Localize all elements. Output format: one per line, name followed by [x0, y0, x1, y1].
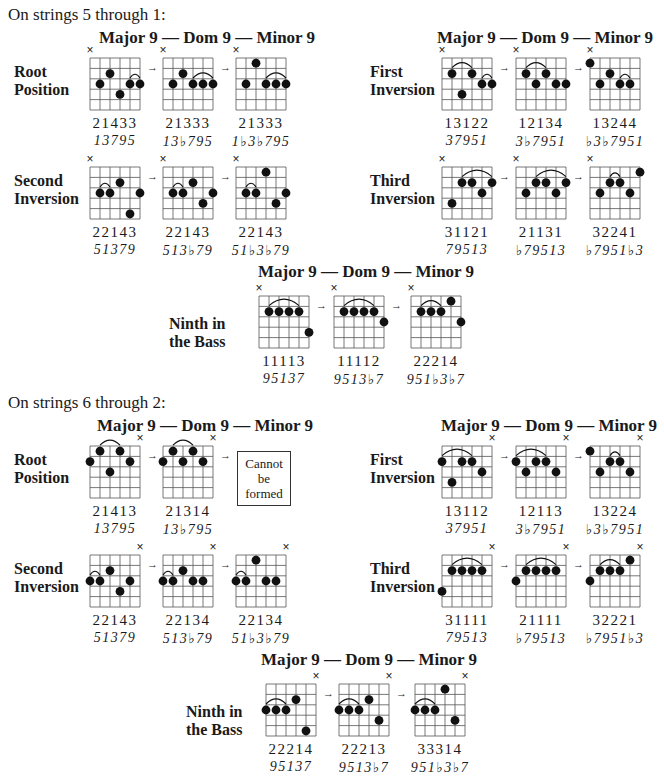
row-label: Ninth inthe Bass: [186, 703, 242, 739]
fingering: 21433: [75, 115, 155, 132]
svg-text:×: ×: [488, 431, 495, 445]
chord-diagram: ×: [89, 554, 141, 608]
svg-text:×: ×: [255, 281, 262, 295]
section-title: On strings 6 through 2:: [8, 393, 166, 413]
fingering: 21314: [148, 503, 228, 520]
chord-diagram: ×: [441, 445, 493, 499]
row-label: FirstInversion: [370, 451, 435, 487]
group-header: Major 9 — Dom 9 — Minor 9: [97, 416, 313, 436]
fingering: 32221: [575, 612, 655, 629]
arrow-icon: →: [147, 558, 158, 570]
fingering: 22143: [75, 224, 155, 241]
fingering: 22214: [251, 741, 331, 758]
fingering: 31111: [427, 612, 507, 629]
row-label: SecondInversion: [14, 172, 79, 208]
svg-text:×: ×: [586, 43, 593, 57]
arrow-icon: →: [147, 170, 158, 182]
chord-diagram: ×: [515, 166, 567, 220]
cannot-be-formed-box: Cannotbeformed: [237, 451, 291, 506]
fingering: 22143: [75, 612, 155, 629]
svg-text:×: ×: [159, 43, 166, 57]
chord-diagram: ×: [338, 683, 390, 737]
chord-diagram: ×: [89, 445, 141, 499]
chord-diagram: ×: [162, 445, 214, 499]
fingering: 21333: [221, 115, 301, 132]
chord-diagram: ×: [414, 683, 466, 737]
arrow-icon: →: [573, 558, 584, 570]
degrees: 951♭3♭7: [395, 759, 485, 776]
fingering: 21413: [75, 503, 155, 520]
row-label: RootPosition: [14, 451, 69, 487]
arrow-icon: →: [220, 61, 231, 73]
chord-diagram: ×: [235, 57, 287, 111]
arrow-icon: →: [396, 687, 407, 699]
chord-diagram: ×: [410, 295, 462, 349]
row-label: RootPosition: [14, 63, 69, 99]
arrow-icon: →: [573, 61, 584, 73]
svg-text:×: ×: [407, 281, 414, 295]
chord-diagram: ×: [515, 445, 567, 499]
arrow-icon: →: [573, 170, 584, 182]
degrees: 1♭3♭795: [216, 133, 306, 150]
arrow-icon: →: [147, 449, 158, 461]
fingering: 22213: [324, 741, 404, 758]
svg-text:×: ×: [562, 431, 569, 445]
svg-text:×: ×: [209, 540, 216, 554]
svg-text:×: ×: [438, 43, 445, 57]
chord-diagram: ×: [441, 57, 493, 111]
chord-diagram: ×: [589, 57, 641, 111]
chord-diagram: ×: [589, 445, 641, 499]
chord-diagram: ×: [162, 57, 214, 111]
degrees: ♭7951♭3: [570, 242, 660, 259]
arrow-icon: →: [499, 170, 510, 182]
svg-text:×: ×: [512, 43, 519, 57]
fingering: 32241: [575, 224, 655, 241]
arrow-icon: →: [323, 687, 334, 699]
chord-diagram: ×: [258, 295, 310, 349]
fingering: 22143: [221, 224, 301, 241]
svg-text:×: ×: [512, 152, 519, 166]
degrees: ♭3♭7951: [570, 521, 660, 538]
fingering: 13224: [575, 503, 655, 520]
fingering: 22134: [148, 612, 228, 629]
svg-text:×: ×: [232, 43, 239, 57]
arrow-icon: →: [573, 449, 584, 461]
svg-text:×: ×: [461, 669, 468, 683]
svg-text:×: ×: [330, 281, 337, 295]
fingering: 11113: [244, 353, 324, 370]
chord-diagram: ×: [265, 683, 317, 737]
chord-diagram: ×: [441, 166, 493, 220]
fingering: 13112: [427, 503, 507, 520]
group-header: Major 9 — Dom 9 — Minor 9: [99, 28, 315, 48]
fingering: 33314: [400, 741, 480, 758]
svg-text:×: ×: [159, 152, 166, 166]
fingering: 22143: [148, 224, 228, 241]
arrow-icon: →: [499, 61, 510, 73]
chord-diagram: ×: [589, 554, 641, 608]
row-label: Ninth inthe Bass: [169, 315, 225, 351]
fingering: 21333: [148, 115, 228, 132]
svg-text:×: ×: [209, 431, 216, 445]
chord-diagram: ×: [235, 554, 287, 608]
fingering: 22214: [396, 353, 476, 370]
svg-text:×: ×: [232, 152, 239, 166]
chord-diagram: ×: [89, 57, 141, 111]
chord-diagram: ×: [515, 57, 567, 111]
degrees: 51♭3♭79: [216, 242, 306, 259]
svg-text:×: ×: [636, 540, 643, 554]
chord-diagram: ×: [589, 166, 641, 220]
row-label: SecondInversion: [14, 560, 79, 596]
svg-text:×: ×: [586, 152, 593, 166]
degrees: 13♭795: [143, 521, 233, 538]
arrow-icon: →: [220, 558, 231, 570]
fingering: 12134: [501, 115, 581, 132]
chord-diagram: ×: [235, 166, 287, 220]
chord-diagram: ×: [441, 554, 493, 608]
svg-text:×: ×: [86, 152, 93, 166]
degrees: 951♭3♭7: [391, 371, 481, 388]
chord-diagram: ×: [162, 554, 214, 608]
arrow-icon: →: [220, 449, 231, 461]
fingering: 13244: [575, 115, 655, 132]
fingering: 13122: [427, 115, 507, 132]
group-header: Major 9 — Dom 9 — Minor 9: [261, 650, 477, 670]
